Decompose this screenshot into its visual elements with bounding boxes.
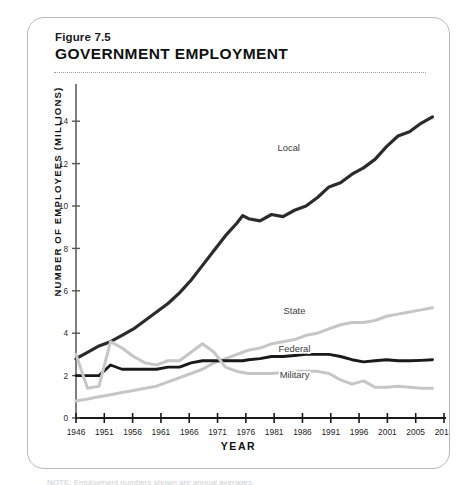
series-label-military: Military	[280, 369, 310, 380]
x-axis-tick-label: 2010	[435, 427, 449, 437]
figure-number: Figure 7.5	[55, 31, 111, 43]
title-divider	[54, 72, 426, 73]
y-axis-tick-label: 8	[63, 245, 68, 254]
x-axis-tick-label: 1951	[95, 427, 114, 437]
x-axis-tick-label: 1981	[265, 427, 284, 437]
x-axis-tick-label: 1966	[180, 427, 199, 437]
series-label-state: State	[284, 305, 306, 316]
x-axis-tick-label: 1961	[152, 427, 171, 437]
line-chart: 0246810121419461951195619611966197119761…	[28, 78, 449, 443]
y-axis-tick-label: 6	[63, 287, 68, 296]
x-axis-tick-label: 2001	[378, 427, 397, 437]
x-axis-tick-label: 2005	[406, 427, 425, 437]
x-axis-tick-label: 1996	[350, 427, 369, 437]
figure-page: Figure 7.5 GOVERNMENT EMPLOYMENT NUMBER …	[0, 0, 475, 485]
x-axis-tick-label: 1991	[321, 427, 340, 437]
x-axis-tick-label: 1946	[67, 427, 86, 437]
y-axis-tick-label: 0	[63, 414, 68, 423]
figure-footnote: NOTE: Employment numbers shown are annua…	[47, 478, 447, 485]
x-axis-label: YEAR	[28, 440, 449, 452]
series-label-local: Local	[278, 142, 300, 153]
series-line-local	[76, 117, 433, 359]
figure-card: Figure 7.5 GOVERNMENT EMPLOYMENT NUMBER …	[27, 17, 450, 469]
chart-plot-area: NUMBER OF EMPLOYEES (MILLIONS) 024681012…	[28, 78, 449, 468]
y-axis-tick-label: 4	[63, 329, 68, 338]
series-label-federal: Federal	[279, 343, 311, 354]
x-axis-tick-label: 1956	[123, 427, 142, 437]
x-axis-tick-label: 1976	[237, 427, 256, 437]
y-axis-tick-label: 2	[63, 372, 68, 381]
x-axis-tick-label: 1986	[293, 427, 312, 437]
y-axis-label: NUMBER OF EMPLOYEES (MILLIONS)	[52, 127, 63, 297]
x-axis-tick-label: 1971	[208, 427, 227, 437]
figure-title: GOVERNMENT EMPLOYMENT	[55, 45, 288, 63]
